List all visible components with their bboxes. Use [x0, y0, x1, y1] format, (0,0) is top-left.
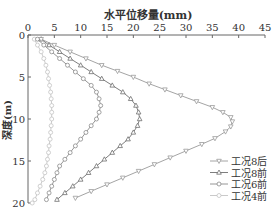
x-axis-ticks: 051015202530354045: [25, 22, 272, 38]
displacement-depth-chart: 水平位移量(mm) 051015202530354045 05101520 深度…: [0, 0, 273, 214]
legend-label: 工况8后: [231, 156, 267, 167]
x-tick-label: 0: [25, 22, 31, 33]
y-axis-title: 深度(m): [1, 100, 13, 140]
x-tick-label: 45: [259, 22, 272, 33]
legend-item: 工况8后: [210, 156, 267, 167]
series-line: [30, 37, 53, 205]
x-tick-label: 35: [206, 22, 219, 33]
legend-item: 工况4前: [210, 190, 267, 202]
x-axis-title: 水平位移量(mm): [104, 8, 193, 22]
legend: 工况8后工况8前工况6前工况4前: [210, 156, 267, 202]
x-tick-label: 10: [74, 22, 87, 33]
x-tick-label: 30: [180, 22, 193, 33]
legend-label: 工况8前: [231, 167, 267, 179]
x-tick-label: 20: [127, 22, 140, 33]
x-tick-label: 25: [153, 22, 166, 33]
legend-item: 工况6前: [210, 178, 267, 190]
y-tick-label: 20: [12, 198, 25, 209]
y-tick-label: 0: [19, 30, 25, 41]
legend-item: 工况8前: [210, 167, 267, 179]
x-tick-label: 15: [101, 22, 114, 33]
y-tick-label: 15: [12, 156, 25, 167]
series-line: [35, 37, 102, 201]
x-tick-label: 5: [51, 22, 57, 33]
x-tick-label: 40: [232, 22, 245, 33]
legend-label: 工况4前: [231, 190, 267, 202]
legend-label: 工况6前: [231, 178, 267, 190]
series-line: [39, 38, 235, 201]
y-tick-label: 5: [19, 72, 25, 83]
plot-series: [30, 37, 234, 205]
y-tick-label: 10: [12, 114, 25, 125]
